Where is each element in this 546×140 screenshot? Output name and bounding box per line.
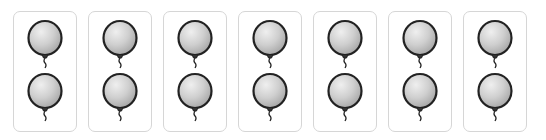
balloon-icon (325, 19, 365, 71)
balloon-icon (475, 72, 515, 124)
balloon-icon (400, 72, 440, 124)
balloon-icon (475, 19, 515, 71)
balloon-icon (25, 72, 65, 124)
balloon-icon (100, 19, 140, 71)
balloon-card (388, 11, 452, 132)
balloon-icon (25, 19, 65, 71)
balloon-card (163, 11, 227, 132)
balloon-card (88, 11, 152, 132)
balloon-icon (100, 72, 140, 124)
card-row (13, 11, 527, 132)
balloon-icon (250, 19, 290, 71)
balloon-icon (250, 72, 290, 124)
balloon-icon (175, 19, 215, 71)
balloon-icon (325, 72, 365, 124)
balloon-card (238, 11, 302, 132)
balloon-icon (175, 72, 215, 124)
balloon-card (13, 11, 77, 132)
balloon-card (313, 11, 377, 132)
balloon-icon (400, 19, 440, 71)
balloon-card (463, 11, 527, 132)
